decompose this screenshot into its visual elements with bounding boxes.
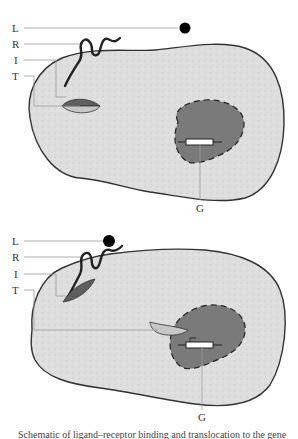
cell-membrane — [29, 44, 284, 200]
label-T: T — [12, 284, 19, 296]
ligand — [103, 235, 115, 247]
label-G: G — [196, 202, 204, 214]
label-R: R — [12, 38, 20, 50]
label-I: I — [14, 54, 18, 66]
figure-caption: Schematic of ligand–receptor binding and… — [18, 428, 298, 439]
label-L: L — [12, 22, 19, 34]
label-L: L — [12, 235, 19, 247]
label-G: G — [198, 411, 206, 423]
gene-box — [186, 139, 213, 145]
bottom-diagram: L R I T G — [12, 235, 285, 423]
gene-box — [186, 342, 213, 348]
ligand — [180, 23, 191, 34]
top-diagram: L R I T G — [12, 22, 284, 214]
label-I: I — [14, 268, 18, 280]
label-T: T — [12, 70, 19, 82]
label-R: R — [12, 251, 20, 263]
